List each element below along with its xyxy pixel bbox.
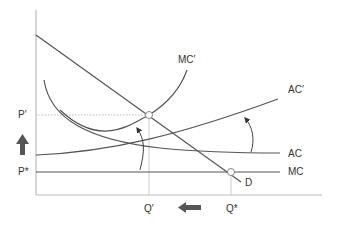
p-star-label: P*	[18, 166, 29, 177]
ac-curve	[44, 80, 280, 153]
ac-label: AC	[288, 148, 302, 159]
mc-prime-label: MC′	[178, 54, 196, 65]
quantity-left-arrow-icon	[178, 202, 201, 213]
ac-prime-label: AC′	[288, 84, 304, 95]
mc-label: MC	[288, 166, 304, 177]
price-up-arrow-icon	[16, 134, 29, 155]
q-prime-label: Q′	[144, 203, 154, 214]
mc-shift-arrow	[137, 128, 143, 170]
mc-prime-curve	[60, 70, 187, 131]
ac-prime-curve	[36, 99, 278, 155]
ac-shift-arrow	[245, 118, 253, 152]
p-prime-label: P′	[18, 109, 27, 120]
equilibrium-marker-old	[228, 169, 235, 176]
demand-curve	[36, 35, 241, 182]
q-star-label: Q*	[226, 203, 238, 214]
demand-label: D	[245, 177, 252, 188]
cost-curve-diagram: P′ P* Q′ Q* MC′ AC′ AC MC D	[0, 0, 337, 228]
equilibrium-marker-new	[146, 112, 153, 119]
